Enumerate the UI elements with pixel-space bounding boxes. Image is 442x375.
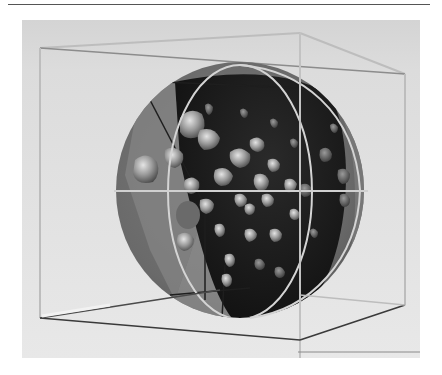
sphere-in-box-render (0, 0, 442, 375)
